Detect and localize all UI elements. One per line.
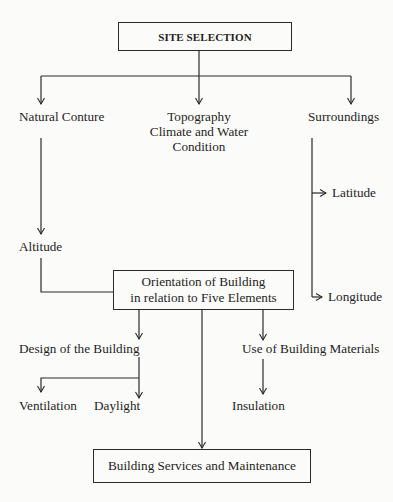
site-selection-box: SITE SELECTION	[118, 22, 292, 51]
topography-line1: Topography	[139, 109, 259, 124]
orientation-box: Orientation of Building in relation to F…	[113, 270, 294, 310]
insulation-label: Insulation	[232, 398, 285, 413]
orientation-line1: Orientation of Building	[130, 274, 277, 290]
latitude-label: Latitude	[332, 185, 376, 200]
topography-label: Topography Climate and Water Condition	[139, 109, 259, 154]
services-label: Building Services and Maintenance	[108, 458, 296, 474]
design-label: Design of the Building	[19, 341, 140, 356]
orientation-line2: in relation to Five Elements	[130, 290, 277, 306]
site-selection-label: SITE SELECTION	[158, 31, 251, 43]
flowchart-canvas: SITE SELECTION Natural Conture Topograph…	[0, 0, 393, 502]
daylight-label: Daylight	[94, 398, 140, 413]
surroundings-label: Surroundings	[308, 109, 379, 124]
topography-line3: Condition	[139, 139, 259, 154]
materials-label: Use of Building Materials	[242, 341, 379, 356]
altitude-label: Altitude	[19, 239, 62, 254]
natural-conture-label: Natural Conture	[19, 109, 104, 124]
orientation-label: Orientation of Building in relation to F…	[130, 274, 277, 306]
ventilation-label: Ventilation	[19, 398, 77, 413]
longitude-label: Longitude	[328, 289, 382, 304]
topography-line2: Climate and Water	[139, 124, 259, 139]
services-box: Building Services and Maintenance	[93, 449, 311, 483]
